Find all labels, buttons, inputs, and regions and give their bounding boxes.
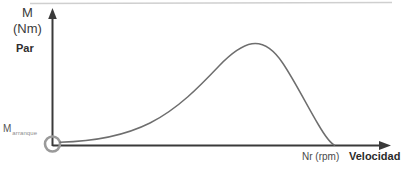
starting-torque-label: Marranque [3, 124, 36, 134]
x-axis-unit-label: Nr (rpm) [302, 152, 339, 162]
y-axis-unit-label: (Nm) [13, 22, 42, 35]
scan-artifact-line [30, 3, 392, 4]
torque-speed-curve [60, 44, 335, 146]
starting-torque-subscript: arranque [12, 130, 37, 136]
x-axis-quantity-label: Velocidad [349, 151, 400, 162]
y-axis-arrowhead [48, 8, 57, 19]
y-axis-quantity-label: Par [16, 43, 34, 54]
chart-canvas [0, 0, 407, 172]
y-axis-symbol-label: M [22, 6, 33, 19]
torque-speed-figure: M (Nm) Par Marranque Nr (rpm) Velocidad [0, 0, 407, 172]
starting-torque-symbol: M [3, 123, 11, 134]
x-axis-arrowhead [379, 141, 391, 150]
